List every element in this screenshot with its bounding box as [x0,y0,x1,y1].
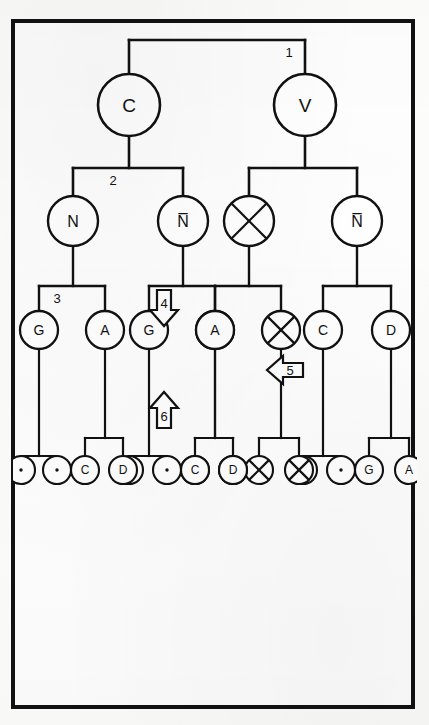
node-cn2-child-a[interactable]: A [86,311,124,349]
arrow-4-label: 4 [160,295,167,310]
leaf-g-label: G [364,463,373,477]
branch-label-2: 2 [109,172,116,187]
tree-svg: 1 2 3 3 V C [13,18,417,708]
tree-canvas: 1 2 3 3 V C [13,18,417,708]
node-root-c-label: C [122,94,136,115]
leaf-crossed-2[interactable] [245,456,273,484]
node-cn2-child-g-label: G [33,322,44,338]
arrow-6-label: 6 [160,408,167,423]
leaf-c-2[interactable]: C [71,456,99,484]
leaf-crossed-1[interactable] [285,456,313,484]
node-c-child-n-label: N [67,212,79,229]
node-v-child-nbar[interactable]: N̅ [332,196,382,246]
arrow-5-shape [267,356,303,384]
leaf-g[interactable]: G [355,456,383,484]
leaf-dot-6[interactable] [13,456,35,484]
branch-label-3-lower: 3 [53,290,60,305]
node-cn2-child-a-label: A [100,322,110,338]
node-v-child-crossed[interactable] [224,196,274,246]
tree-links [21,40,409,456]
leaf-dot-5[interactable] [43,456,71,484]
leaf-a-label: A [404,463,412,477]
leaf-dot-6-circle [13,456,35,484]
node-v-child-nbar-label: N̅ [351,212,363,229]
node-cn2-child-g[interactable]: G [20,311,58,349]
node-c-child-nbar[interactable]: N̅ [158,196,208,246]
node-x-child-1[interactable] [262,311,300,349]
node-nbar-child-c-label: C [317,322,327,338]
leaf-dot-3[interactable] [153,456,181,484]
leaf-dot-1[interactable] [327,456,355,484]
leaf-a[interactable]: A [395,456,417,484]
arrow-5-marker: 5 [267,356,303,384]
leaf-d-2[interactable]: D [109,456,137,484]
branch-label-1: 1 [285,44,292,59]
node-nbar-child-d-label: D [385,322,395,338]
node-c-child-nbar-label: N̅ [177,212,189,229]
arrow-6-marker: 6 [150,392,178,428]
node-nbar-child-c[interactable]: C [304,311,342,349]
leaf-d-2-label: D [118,463,127,477]
node-root-v-label: V [298,94,311,115]
figure-page: 1 2 3 3 V C [0,0,429,725]
node-root-v[interactable]: V [274,74,336,136]
branch-number-labels: 1 2 3 3 [53,44,292,305]
leaf-c-2-label: C [80,463,89,477]
node-cn1-child-a-label: A [210,322,220,338]
leaf-d-1[interactable]: D [219,456,247,484]
node-c-child-n[interactable]: N [48,196,98,246]
node-nbar-child-d[interactable]: D [372,311,410,349]
node-root-c[interactable]: C [98,74,160,136]
leaf-c-1[interactable]: C [181,456,209,484]
node-cn1-child-g-label: G [143,322,154,338]
tree-rotation-wrapper: 1 2 3 3 V C [0,0,429,725]
node-cn1-child-a[interactable]: A [196,311,234,349]
leaf-c-1-label: C [190,463,199,477]
leaf-d-1-label: D [228,463,237,477]
arrow-5-label: 5 [286,362,293,377]
